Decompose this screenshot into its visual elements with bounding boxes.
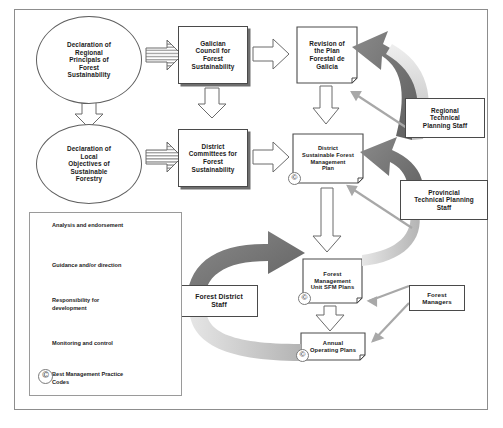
node-forest-managers-label: ForestManagers [422,291,452,306]
bmp-mark-annual-operating-plans: © [296,349,309,362]
node-plan-revision-label: Revision ofthe PlanForestal deGalicia [309,40,345,70]
diagram-canvas: Declaration ofRegionalPrincipals ofFores… [0,0,503,428]
node-plan-revision[interactable]: Revision ofthe PlanForestal deGalicia [297,27,357,83]
node-forest-district-staff-label: Forest DistrictStaff [195,293,243,309]
legend-label-responsibility-line1: Responsibility for [52,297,99,305]
node-provincial-technical-planning-staff[interactable]: ProvincialTechnical PlanningStaff [400,180,488,220]
node-galician-council[interactable]: GalicianCouncil forForestSustainability [178,26,248,84]
node-provincial-technical-planning-staff-label: ProvincialTechnical PlanningStaff [414,189,474,212]
legend-copyright-circle-icon: © [38,369,53,384]
node-local-declaration-label: Declaration ofLocalObjectives ofSustaina… [67,145,111,183]
node-district-committees-label: DistrictCommittees forForestSustainabili… [189,143,237,173]
node-district-committees[interactable]: DistrictCommittees forForestSustainabili… [178,129,248,187]
node-regional-technical-planning-staff-label: RegionalTechnicalPlanning Staff [423,107,467,130]
legend-label-bmp-line1: Best Management Practice [52,371,123,379]
node-fmu-sfm-plans-label: ForestManagementUnit SFM Plans [311,271,355,291]
legend-label-monitoring: Monitoring and control [52,340,113,348]
legend-label-bmp-line2: Codes [52,379,69,387]
node-local-declaration[interactable]: Declaration ofLocalObjectives ofSustaina… [36,124,142,204]
node-galician-council-label: GalicianCouncil forForestSustainability [192,40,235,70]
bmp-mark-district-sfm-plan: © [288,172,301,185]
legend-label-responsibility-line2: development [52,305,87,313]
node-district-sfm-plan[interactable]: DistrictSustainable ForestManagementPlan [293,134,363,183]
node-fmu-sfm-plans[interactable]: ForestManagementUnit SFM Plans [303,259,362,303]
node-regional-declaration-label: Declaration ofRegionalPrincipals ofFores… [67,41,111,79]
node-forest-managers[interactable]: ForestManagers [409,285,465,311]
node-forest-district-staff[interactable]: Forest DistrictStaff [180,285,258,317]
node-annual-operating-plans[interactable]: AnnualOperating Plans [301,333,365,360]
node-regional-declaration[interactable]: Declaration ofRegionalPrincipals ofFores… [36,16,142,104]
bmp-mark-fmu-sfm-plans: © [298,292,311,305]
node-district-sfm-plan-label: DistrictSustainable ForestManagementPlan [302,145,354,171]
legend-label-analysis: Analysis and endorsement [52,222,123,230]
node-regional-technical-planning-staff[interactable]: RegionalTechnicalPlanning Staff [405,98,485,138]
node-annual-operating-plans-label: AnnualOperating Plans [310,340,356,354]
legend-label-guidance: Guidance and/or direction [52,262,121,270]
